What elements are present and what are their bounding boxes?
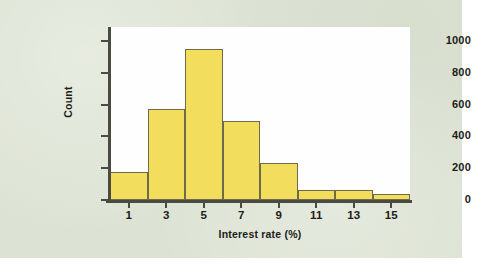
x-axis-tick — [165, 202, 167, 208]
y-axis-title: Count — [62, 86, 74, 117]
x-axis-tick — [278, 202, 280, 208]
y-axis-tick — [101, 199, 108, 201]
x-axis-tick — [240, 202, 242, 208]
x-axis-line — [106, 200, 412, 203]
x-axis-tick-label: 15 — [371, 210, 411, 222]
x-axis-tick — [203, 202, 205, 208]
y-axis-tick-label: 1000 — [382, 35, 482, 46]
x-axis-tick-label: 9 — [259, 210, 299, 222]
y-axis-tick — [101, 167, 108, 169]
x-axis-tick-label: 7 — [221, 210, 261, 222]
histogram-bar — [148, 109, 186, 200]
histogram-bar — [223, 121, 261, 201]
histogram-bar — [185, 49, 223, 200]
x-axis-title: Interest rate (%) — [110, 228, 410, 240]
y-axis-tick — [101, 72, 108, 74]
y-axis-tick — [101, 104, 108, 106]
y-axis-tick-label: 400 — [382, 130, 482, 141]
y-axis-tick — [101, 40, 108, 42]
x-axis-tick — [315, 202, 317, 208]
x-axis-tick — [390, 202, 392, 208]
histogram-bar — [298, 190, 336, 200]
x-axis-tick-label: 11 — [296, 210, 336, 222]
y-axis-tick-label: 600 — [382, 99, 482, 110]
x-axis-tick-label: 13 — [334, 210, 374, 222]
x-axis-tick-label: 1 — [109, 210, 149, 222]
histogram-bar — [260, 163, 298, 200]
y-axis-tick-label: 800 — [382, 67, 482, 78]
histogram-figure: 02004006008001000 13579111315 Count Inte… — [0, 0, 482, 278]
histogram-bar — [335, 190, 373, 200]
histogram-bar — [110, 172, 148, 200]
x-axis-tick — [128, 202, 130, 208]
y-axis-line — [108, 27, 111, 202]
y-axis-tick-label: 200 — [382, 162, 482, 173]
x-axis-tick-label: 3 — [146, 210, 186, 222]
y-axis-tick — [101, 135, 108, 137]
x-axis-tick — [353, 202, 355, 208]
y-axis-tick-label: 0 — [382, 194, 482, 205]
x-axis-tick-label: 5 — [184, 210, 224, 222]
